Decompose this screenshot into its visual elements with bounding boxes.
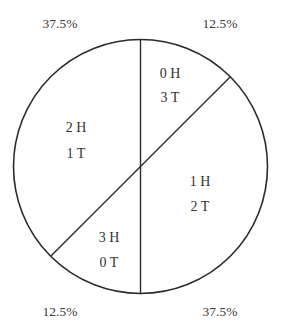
pie-chart [0,0,283,335]
slice-label-lower-right-tails: 2 T [191,199,210,215]
slice-label-lower-left-heads: 3 H [99,230,120,246]
percent-label-bottom-left: 12.5% [43,304,78,320]
percent-label-top-right: 12.5% [203,16,238,32]
slice-label-upper-right-heads: 0 H [160,66,181,82]
slice-label-lower-right-heads: 1 H [190,174,211,190]
percent-label-top-left: 37.5% [43,16,78,32]
slice-label-upper-left-tails: 1 T [67,146,86,162]
slice-label-upper-left-heads: 2 H [66,120,87,136]
percent-label-bottom-right: 37.5% [203,304,238,320]
slice-label-lower-left-tails: 0 T [100,255,119,271]
slice-label-upper-right-tails: 3 T [161,90,180,106]
